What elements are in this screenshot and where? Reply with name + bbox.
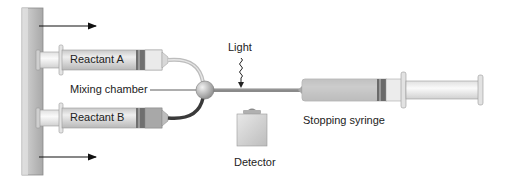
light-wave-icon xyxy=(240,58,243,84)
label-light: Light xyxy=(228,42,252,53)
pusher-block xyxy=(22,8,43,175)
tube-b xyxy=(168,98,203,118)
label-detector: Detector xyxy=(234,157,276,168)
stopping-syringe xyxy=(298,72,483,108)
detector-box xyxy=(237,109,267,147)
label-mixing-chamber: Mixing chamber xyxy=(70,84,148,95)
label-reactant-a: Reactant A xyxy=(70,54,124,65)
mixing-chamber-sphere xyxy=(196,81,214,99)
tube-a xyxy=(168,60,203,82)
label-stopping-syringe: Stopping syringe xyxy=(303,115,385,126)
label-reactant-b: Reactant B xyxy=(70,112,124,123)
